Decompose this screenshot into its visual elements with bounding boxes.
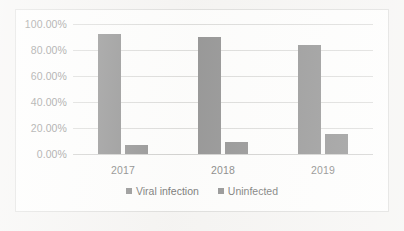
legend-item-viral-infection[interactable]: Viral infection bbox=[126, 185, 199, 197]
legend-item-label: Uninfected bbox=[228, 185, 278, 197]
legend-item-label: Viral infection bbox=[136, 185, 199, 197]
bar-chart-figure: 100.00%80.00%60.00%40.00%20.00%0.00%2017… bbox=[0, 0, 404, 231]
x-axis-tick-label-2017: 2017 bbox=[98, 164, 148, 176]
y-axis-tick-label: 0.00% bbox=[37, 148, 67, 160]
chart-frame: 100.00%80.00%60.00%40.00%20.00%0.00%2017… bbox=[15, 9, 389, 212]
bar-group-2017: 2017 bbox=[98, 24, 148, 154]
bar-2017-uninfected[interactable] bbox=[125, 145, 148, 154]
y-axis-tick-label: 40.00% bbox=[31, 96, 67, 108]
bar-2019-uninfected[interactable] bbox=[325, 134, 348, 154]
bar-group-2019: 2019 bbox=[298, 24, 348, 154]
x-axis-tick-label-2019: 2019 bbox=[298, 164, 348, 176]
y-axis-tick-label: 100.00% bbox=[25, 18, 67, 30]
bar-2017-viral-infection[interactable] bbox=[98, 34, 121, 154]
x-axis-tick-label-2018: 2018 bbox=[198, 164, 248, 176]
y-axis-tick-label: 60.00% bbox=[31, 70, 67, 82]
y-axis-tick-label: 80.00% bbox=[31, 44, 67, 56]
bar-group-2018: 2018 bbox=[198, 24, 248, 154]
chart-legend: Viral infectionUninfected bbox=[16, 185, 388, 197]
gridline-000 bbox=[73, 154, 373, 155]
bar-2018-uninfected[interactable] bbox=[225, 142, 248, 154]
legend-item-uninfected[interactable]: Uninfected bbox=[218, 185, 278, 197]
plot-area: 100.00%80.00%60.00%40.00%20.00%0.00%2017… bbox=[73, 24, 373, 154]
legend-swatch-icon bbox=[218, 188, 224, 194]
legend-swatch-icon bbox=[126, 188, 132, 194]
bar-2018-viral-infection[interactable] bbox=[198, 37, 221, 154]
bar-2019-viral-infection[interactable] bbox=[298, 45, 321, 154]
y-axis-tick-label: 20.00% bbox=[31, 122, 67, 134]
